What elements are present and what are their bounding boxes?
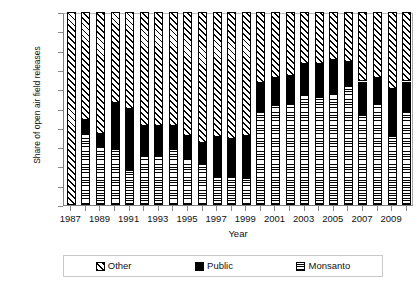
x-tick-mark: [216, 206, 217, 211]
bar-segment-monsanto: [300, 95, 309, 205]
bar-segment-other: [169, 12, 178, 126]
bar-1990[interactable]: [111, 12, 120, 205]
bar-segment-monsanto: [373, 103, 382, 205]
bar-segment-monsanto: [256, 112, 265, 205]
x-tick-mark: [129, 206, 130, 211]
bar-segment-other: [140, 12, 149, 126]
bar-segment-other: [344, 12, 353, 62]
x-tick-mark: [304, 206, 305, 211]
bar-segment-public: [227, 139, 236, 176]
x-tick-mark: [347, 206, 348, 211]
x-tick-mark: [85, 206, 86, 211]
x-tick-mark: [274, 206, 275, 211]
bar-2009[interactable]: [388, 12, 397, 205]
bar-segment-public: [96, 134, 105, 148]
bar-segment-public: [271, 78, 280, 105]
bar-segment-monsanto: [227, 176, 236, 205]
bar-1989[interactable]: [96, 12, 105, 205]
bar-segment-public: [315, 64, 324, 97]
chart-legend: OtherPublicMonsanto: [63, 255, 383, 277]
x-tick-mark: [377, 206, 378, 211]
bar-segment-public: [358, 82, 367, 115]
bar-segment-other: [125, 12, 134, 109]
x-tick-mark: [333, 206, 334, 211]
bar-segment-public: [169, 126, 178, 149]
legend-item-public[interactable]: Public: [195, 261, 233, 271]
bar-segment-public: [81, 120, 90, 134]
bar-segment-public: [242, 136, 251, 178]
bar-segment-public: [140, 126, 149, 155]
bar-1992[interactable]: [140, 12, 149, 205]
bar-segment-public: [344, 62, 353, 85]
stacked-bar-chart: Share of open air field releases 0%10203…: [0, 0, 419, 289]
bar-1987[interactable]: [67, 12, 76, 205]
x-tick-mark: [362, 206, 363, 211]
bar-1998[interactable]: [227, 12, 236, 205]
bar-segment-other: [198, 12, 207, 143]
bar-segment-other: [242, 12, 251, 136]
bar-segment-public: [373, 78, 382, 103]
legend-swatch-icon: [296, 262, 305, 271]
bar-segment-other: [256, 12, 265, 83]
x-tick-mark: [391, 206, 392, 211]
bar-segment-public: [286, 76, 295, 103]
bar-segment-monsanto: [96, 147, 105, 205]
bar-1996[interactable]: [198, 12, 207, 205]
bar-segment-other: [286, 12, 295, 76]
bar-segment-other: [329, 12, 338, 60]
x-tick-mark: [289, 206, 290, 211]
bar-2004[interactable]: [315, 12, 324, 205]
bar-segment-monsanto: [125, 170, 134, 205]
bar-segment-public: [125, 109, 134, 171]
bar-1994[interactable]: [169, 12, 178, 205]
bar-segment-monsanto: [111, 149, 120, 205]
bar-segment-monsanto: [315, 97, 324, 205]
bar-1999[interactable]: [242, 12, 251, 205]
bar-segment-other: [213, 12, 222, 137]
x-tick-mark: [231, 206, 232, 211]
legend-swatch-icon: [195, 262, 204, 271]
x-tick-mark: [318, 206, 319, 211]
bar-2010[interactable]: [402, 12, 411, 205]
bar-segment-monsanto: [242, 178, 251, 205]
bar-segment-monsanto: [198, 164, 207, 205]
bar-segment-other: [271, 12, 280, 78]
bar-2002[interactable]: [286, 12, 295, 205]
bar-segment-public: [402, 82, 411, 113]
bar-segment-other: [227, 12, 236, 139]
bar-2008[interactable]: [373, 12, 382, 205]
bar-2003[interactable]: [300, 12, 309, 205]
legend-item-monsanto[interactable]: Monsanto: [296, 261, 350, 271]
bar-2007[interactable]: [358, 12, 367, 205]
bar-segment-monsanto: [213, 176, 222, 205]
bar-segment-public: [154, 126, 163, 155]
bar-segment-monsanto: [358, 114, 367, 205]
legend-items: OtherPublicMonsanto: [64, 256, 382, 276]
x-tick-mark: [99, 206, 100, 211]
bar-segment-other: [111, 12, 120, 103]
bar-2000[interactable]: [256, 12, 265, 205]
x-tick-mark: [245, 206, 246, 211]
x-tick-mark: [158, 206, 159, 211]
bar-1991[interactable]: [125, 12, 134, 205]
x-tick-mark: [260, 206, 261, 211]
legend-swatch-icon: [96, 262, 105, 271]
x-tick-mark: [202, 206, 203, 211]
x-axis-title: Year: [63, 228, 413, 239]
bar-1993[interactable]: [154, 12, 163, 205]
y-tick-mark: [58, 206, 63, 207]
bar-1988[interactable]: [81, 12, 90, 205]
x-tick-mark: [406, 206, 407, 211]
bar-1997[interactable]: [213, 12, 222, 205]
bar-2001[interactable]: [271, 12, 280, 205]
bar-2006[interactable]: [344, 12, 353, 205]
bar-segment-public: [329, 60, 338, 93]
x-tick-mark: [70, 206, 71, 211]
bar-1995[interactable]: [183, 12, 192, 205]
bar-segment-other: [315, 12, 324, 64]
legend-item-other[interactable]: Other: [96, 261, 132, 271]
bar-segment-other: [183, 12, 192, 136]
legend-label: Public: [207, 261, 233, 271]
bar-2005[interactable]: [329, 12, 338, 205]
bar-segment-other: [358, 12, 367, 81]
